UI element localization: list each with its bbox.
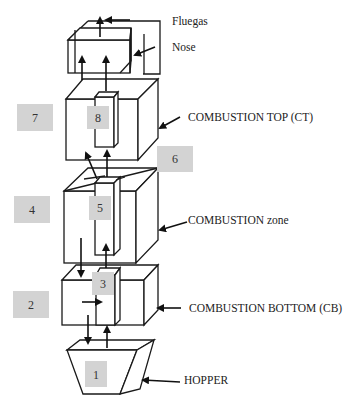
leader-combustion-zone [160, 222, 187, 230]
svg-text:8: 8 [95, 111, 101, 125]
label-nose: Nose [172, 41, 196, 53]
zone-box-2: 2 [13, 291, 49, 318]
svg-text:4: 4 [29, 203, 35, 217]
leader-nose [135, 47, 155, 55]
svg-text:3: 3 [100, 277, 106, 291]
hopper-block [67, 340, 154, 394]
svg-text:5: 5 [97, 201, 103, 215]
combustion-top-block [66, 79, 158, 160]
svg-text:6: 6 [172, 152, 178, 166]
zone-box-5: 5 [89, 196, 111, 220]
zone-box-7: 7 [17, 104, 53, 131]
zone-box-6: 6 [157, 146, 193, 172]
zone-box-1: 1 [85, 361, 107, 387]
zone-box-4: 4 [14, 196, 50, 223]
boiler-diagram: Fluegas Nose COMBUSTION TOP (CT) COMBUST… [0, 0, 348, 408]
svg-text:2: 2 [28, 298, 34, 312]
svg-text:7: 7 [32, 111, 38, 125]
label-hopper: HOPPER [184, 374, 228, 386]
label-combustion-top: COMBUSTION TOP (CT) [188, 111, 313, 124]
svg-text:1: 1 [93, 368, 99, 382]
label-combustion-zone: COMBUSTION zone [188, 214, 289, 226]
label-fluegas: Fluegas [172, 15, 208, 28]
leader-combustion-top [160, 117, 180, 128]
zone-box-3: 3 [92, 272, 114, 295]
leader-hopper [143, 380, 180, 382]
zone-box-8: 8 [87, 106, 109, 129]
label-combustion-bottom: COMBUSTION BOTTOM (CB) [189, 302, 342, 315]
